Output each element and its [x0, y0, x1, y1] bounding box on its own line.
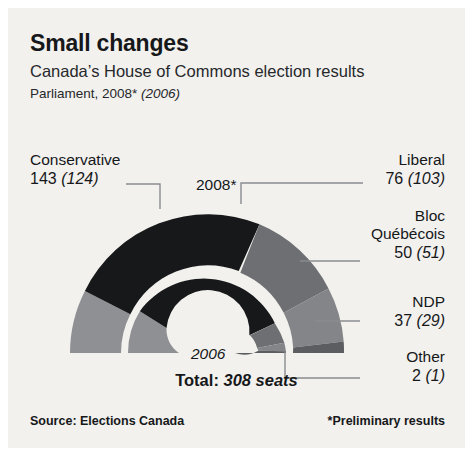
inner-ring-2006: [128, 279, 286, 355]
label-ndp-name: NDP: [394, 293, 445, 311]
label-bloc-name: Bloc: [371, 207, 445, 225]
total-seats: Total: 308 seats: [8, 371, 465, 390]
label-bloc-previous: (51): [417, 244, 445, 261]
label-conservative-value: 143 (124): [30, 169, 120, 188]
total-value: 308 seats: [223, 371, 297, 389]
label-liberal-previous: (103): [408, 170, 445, 187]
source-note: Source: Elections Canada: [30, 414, 184, 428]
label-bloc-current: 50: [394, 244, 412, 261]
label-conservative-current: 143: [30, 170, 57, 187]
label-other-name: Other: [406, 348, 445, 366]
ring-label-2006: 2006: [191, 345, 225, 363]
label-ndp-value: 37 (29): [394, 311, 445, 330]
leader-line-conservative: [126, 184, 160, 209]
label-bloc-name2: Québécois: [371, 225, 445, 243]
leader-line-liberal: [241, 183, 363, 204]
label-liberal: Liberal 76 (103): [385, 151, 445, 188]
label-bloc-value: 50 (51): [371, 243, 445, 262]
label-liberal-name: Liberal: [385, 151, 445, 169]
arc-inner-other: [235, 351, 286, 355]
label-conservative-previous: (124): [61, 170, 98, 187]
label-liberal-current: 76: [385, 170, 403, 187]
footnote-preliminary: *Preliminary results: [328, 414, 445, 428]
label-conservative-name: Conservative: [30, 151, 120, 169]
ring-label-2008: 2008*: [196, 176, 237, 194]
label-bloc-quebecois: Bloc Québécois 50 (51): [371, 207, 445, 262]
total-prefix: Total:: [175, 371, 223, 389]
label-liberal-value: 76 (103): [385, 169, 445, 188]
label-ndp-current: 37: [394, 312, 412, 329]
infographic-card: Small changes Canada’s House of Commons …: [8, 8, 465, 448]
label-conservative: Conservative 143 (124): [30, 151, 120, 188]
label-ndp: NDP 37 (29): [394, 293, 445, 330]
label-ndp-previous: (29): [417, 312, 445, 329]
